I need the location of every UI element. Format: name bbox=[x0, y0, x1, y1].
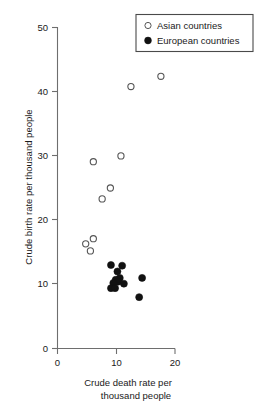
x-axis-title-line2: thousand people bbox=[101, 390, 171, 401]
legend-label-european: European countries bbox=[157, 35, 240, 46]
x-tick-label-0: 0 bbox=[55, 357, 60, 368]
y-tick-label-10: 10 bbox=[37, 278, 48, 289]
x-axis-ticks bbox=[58, 349, 176, 355]
data-point bbox=[90, 159, 96, 165]
series-asian-countries bbox=[83, 73, 164, 254]
data-point bbox=[120, 280, 127, 287]
legend-label-asian: Asian countries bbox=[157, 20, 222, 31]
y-axis-ticks bbox=[52, 28, 58, 349]
data-point bbox=[119, 262, 126, 269]
x-axis-tick-labels: 0 10 20 bbox=[55, 357, 180, 368]
legend: Asian countries European countries bbox=[136, 15, 253, 52]
legend-marker-asian bbox=[145, 22, 151, 28]
y-tick-label-0: 0 bbox=[43, 343, 48, 354]
data-point bbox=[90, 236, 96, 242]
data-point bbox=[87, 248, 93, 254]
data-point bbox=[107, 185, 113, 191]
data-point bbox=[158, 73, 164, 79]
x-tick-label-10: 10 bbox=[111, 357, 122, 368]
data-point bbox=[139, 274, 146, 281]
data-point bbox=[136, 294, 143, 301]
x-tick-label-20: 20 bbox=[170, 357, 181, 368]
data-point bbox=[99, 196, 105, 202]
y-tick-label-30: 30 bbox=[37, 150, 48, 161]
y-axis-tick-labels: 50 40 30 20 10 0 bbox=[37, 22, 48, 354]
chart-svg: Crude birth rate per thousand people 50 … bbox=[0, 0, 268, 414]
x-axis-title-line1: Crude death rate per bbox=[84, 377, 172, 388]
data-point bbox=[128, 83, 134, 89]
legend-marker-european bbox=[145, 37, 152, 44]
scatter-chart: Crude birth rate per thousand people 50 … bbox=[0, 0, 268, 414]
data-point bbox=[112, 285, 119, 292]
y-axis-title: Crude birth rate per thousand people bbox=[23, 109, 34, 264]
data-point bbox=[107, 262, 114, 269]
data-point bbox=[114, 268, 121, 275]
series-european-countries bbox=[107, 262, 145, 301]
data-point bbox=[83, 241, 89, 247]
y-tick-label-20: 20 bbox=[37, 214, 48, 225]
y-tick-label-50: 50 bbox=[37, 22, 48, 33]
data-point bbox=[118, 153, 124, 159]
y-tick-label-40: 40 bbox=[37, 86, 48, 97]
